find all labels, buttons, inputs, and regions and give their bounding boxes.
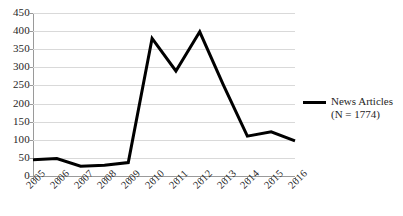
y-tick-mark-50 <box>29 158 33 159</box>
chart-legend: News Articles (N = 1774) <box>303 95 403 121</box>
legend-label: News Articles <box>331 95 393 108</box>
y-tick-label-350: 350 <box>2 43 30 54</box>
y-tick-label-300: 300 <box>2 61 30 72</box>
y-tick-mark-200 <box>29 104 33 105</box>
y-tick-mark-250 <box>29 85 33 86</box>
y-tick-label-100: 100 <box>2 134 30 145</box>
y-tick-label-250: 250 <box>2 79 30 90</box>
y-tick-mark-100 <box>29 140 33 141</box>
legend-entry-news-articles: News Articles <box>303 95 403 108</box>
y-tick-mark-150 <box>29 122 33 123</box>
y-tick-label-450: 450 <box>2 7 30 18</box>
y-tick-label-400: 400 <box>2 25 30 36</box>
y-tick-mark-450 <box>29 13 33 14</box>
legend-sublabel: (N = 1774) <box>331 108 403 121</box>
chart-figure: 050100150200250300350400450 200520062007… <box>0 0 403 216</box>
news-articles-polyline <box>33 32 295 166</box>
series-news-articles <box>33 13 295 176</box>
y-tick-label-150: 150 <box>2 116 30 127</box>
legend-line-swatch-icon <box>303 101 326 104</box>
y-tick-mark-350 <box>29 49 33 50</box>
y-tick-label-200: 200 <box>2 98 30 109</box>
y-tick-mark-0 <box>29 176 33 177</box>
y-tick-label-50: 50 <box>2 152 30 163</box>
y-tick-mark-400 <box>29 31 33 32</box>
y-tick-mark-300 <box>29 67 33 68</box>
